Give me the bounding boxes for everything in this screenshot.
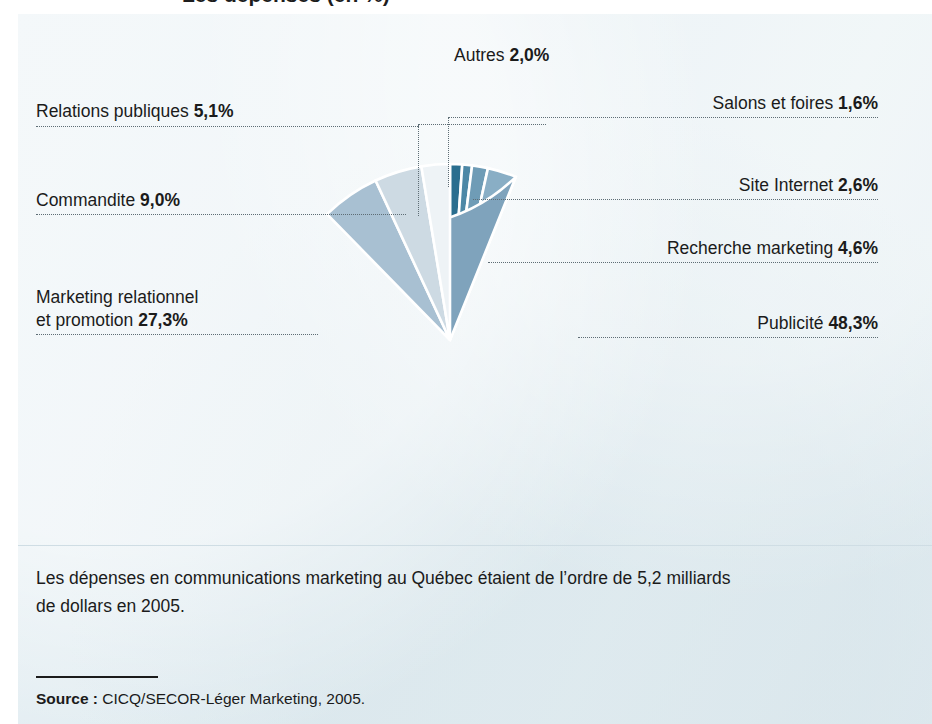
page-title-fragment: Les dépenses (en %)	[182, 0, 390, 7]
label-commandite-value: 9,0	[140, 190, 164, 210]
label-site-internet: Site Internet 2,6%	[478, 174, 878, 197]
caption-line-1: Les dépenses en communications marketing…	[36, 564, 896, 592]
figure-panel: Autres 2,0% Salons et foires 1,6% Site I…	[18, 14, 932, 724]
leader-line-recherche	[488, 262, 878, 263]
source-text: CICQ/SECOR-Léger Marketing, 2005.	[102, 690, 365, 707]
label-publicite-pct: %	[862, 313, 878, 333]
label-marketing-pct: %	[172, 310, 188, 330]
label-relations-publiques: Relations publiques 5,1%	[36, 100, 234, 123]
leader-line-publicite	[578, 337, 878, 338]
label-marketing-line2: et promotion 27,3%	[36, 309, 198, 332]
label-salons-value: 1,6	[838, 93, 862, 113]
pie-chart-area: Autres 2,0% Salons et foires 1,6% Site I…	[18, 14, 932, 534]
label-marketing-value: 27,3	[138, 310, 172, 330]
label-recherche-name: Recherche marketing	[667, 238, 833, 258]
label-recherche-value: 4,6	[838, 238, 862, 258]
label-salons-et-foires: Salons et foires 1,6%	[478, 92, 878, 115]
cropped-title-strip: Les dépenses (en %)	[0, 0, 932, 14]
leader-line-relations	[36, 126, 418, 127]
label-marketing-line2-name: et promotion	[36, 310, 133, 330]
label-autres: Autres 2,0%	[454, 44, 549, 67]
label-autres-value: 2,0	[509, 45, 533, 65]
label-commandite-pct: %	[164, 190, 180, 210]
label-relations-name: Relations publiques	[36, 101, 189, 121]
source-label: Source :	[36, 690, 98, 707]
source-note: Source : CICQ/SECOR-Léger Marketing, 200…	[36, 690, 365, 708]
label-salons-pct: %	[862, 93, 878, 113]
label-publicite-value: 48,3	[828, 313, 862, 333]
leader-line-autres	[418, 124, 546, 125]
label-recherche-pct: %	[862, 238, 878, 258]
label-commandite: Commandite 9,0%	[36, 189, 180, 212]
leader-drop-salons	[448, 117, 449, 187]
leader-line-marketing-relationnel	[36, 334, 318, 335]
label-relations-value: 5,1	[194, 101, 218, 121]
leader-drop-relations	[418, 126, 419, 186]
label-site-pct: %	[862, 175, 878, 195]
label-publicite-name: Publicité	[757, 313, 823, 333]
caption-divider	[18, 545, 932, 546]
label-site-name: Site Internet	[739, 175, 833, 195]
label-autres-name: Autres	[454, 45, 505, 65]
figure-caption: Les dépenses en communications marketing…	[36, 564, 896, 620]
leader-line-salons	[448, 117, 878, 118]
label-commandite-name: Commandite	[36, 190, 135, 210]
label-marketing-line1: Marketing relationnel	[36, 286, 198, 309]
caption-line-2: de dollars en 2005.	[36, 592, 896, 620]
leader-line-commandite	[36, 214, 406, 215]
label-marketing-relationnel: Marketing relationnel et promotion 27,3%	[36, 286, 198, 332]
label-autres-pct: %	[534, 45, 550, 65]
label-recherche-marketing: Recherche marketing 4,6%	[478, 237, 878, 260]
label-site-value: 2,6	[838, 175, 862, 195]
source-rule	[36, 676, 158, 678]
label-relations-pct: %	[218, 101, 234, 121]
leader-line-site-internet	[473, 199, 878, 200]
label-publicite: Publicité 48,3%	[578, 312, 878, 335]
label-salons-name: Salons et foires	[713, 93, 834, 113]
